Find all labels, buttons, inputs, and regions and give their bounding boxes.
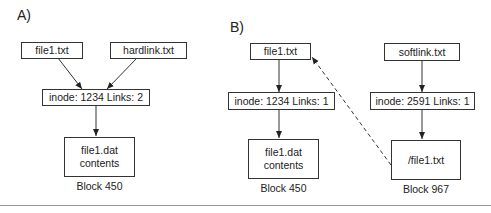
panel-a-label: A) xyxy=(17,7,31,23)
a-data-block-node: file1.dat contents xyxy=(64,137,135,177)
a-block-caption: Block 450 xyxy=(64,180,135,192)
b-file1-node: file1.txt xyxy=(250,43,311,60)
b-data-block-node: file1.dat contents xyxy=(248,139,319,179)
b-block450-caption: Block 450 xyxy=(248,182,319,194)
a-inode-node: inode: 1234 Links: 2 xyxy=(42,89,150,106)
b-block967-caption: Block 967 xyxy=(391,183,461,195)
a-data-line1: file1.dat xyxy=(81,144,118,157)
b-softlink-data-node: /file1.txt xyxy=(391,140,461,180)
bottom-divider xyxy=(0,205,491,206)
b-softlink-node: softlink.txt xyxy=(384,43,460,61)
edge-a-hardlink-to-inode xyxy=(107,58,137,89)
a-data-line2: contents xyxy=(80,157,120,170)
b-inode2-node: inode: 2591 Links: 1 xyxy=(370,92,475,110)
edge-a-file1-to-inode xyxy=(58,58,82,89)
b-inode1-node: inode: 1234 Links: 1 xyxy=(228,92,335,110)
b-data-line2: contents xyxy=(264,159,304,172)
b-data-line1: file1.dat xyxy=(265,146,302,159)
panel-b-label: B) xyxy=(230,19,244,35)
a-file1-node: file1.txt xyxy=(21,42,83,59)
a-hardlink-node: hardlink.txt xyxy=(110,42,187,59)
edge-b-softlink-dashed-to-file1 xyxy=(312,57,391,165)
